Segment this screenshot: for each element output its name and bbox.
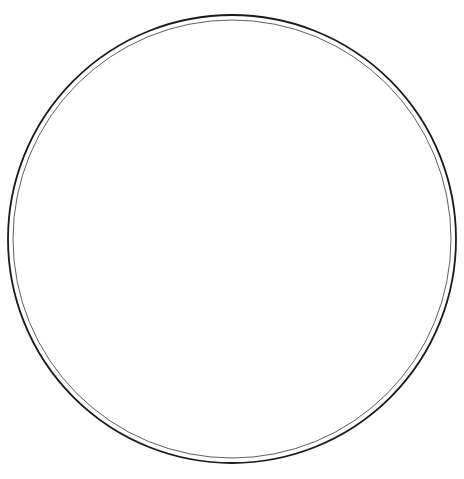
isogonic-chart-frame <box>0 0 464 479</box>
map-inner-border-circle <box>13 20 451 458</box>
polar-isogonic-map <box>0 0 464 479</box>
map-outer-border-circle <box>8 15 456 463</box>
